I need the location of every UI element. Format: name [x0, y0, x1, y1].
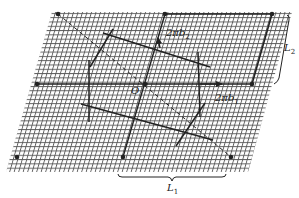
L1-brace	[118, 174, 226, 181]
L1-label: L1	[167, 183, 178, 196]
b2-label-text: 2πb	[166, 27, 185, 38]
L2-label: L2	[284, 43, 295, 56]
L1-label-text: L	[167, 182, 174, 193]
b2-label-subscript: 2	[185, 33, 189, 41]
b1-vector-label: 2πb1	[215, 93, 239, 106]
grid-hatching	[0, 0, 299, 198]
origin-label: O	[131, 86, 139, 96]
L2-label-subscript: 2	[291, 48, 295, 56]
diagram: O 2πb2 2πb1 L1 L2	[0, 0, 299, 198]
lattice-diagram	[0, 0, 299, 198]
L1-label-subscript: 1	[174, 188, 178, 196]
b1-label-text: 2πb	[215, 92, 234, 103]
b2-vector-label: 2πb2	[166, 28, 190, 41]
b1-label-subscript: 1	[234, 98, 238, 106]
L2-label-text: L	[284, 42, 291, 53]
